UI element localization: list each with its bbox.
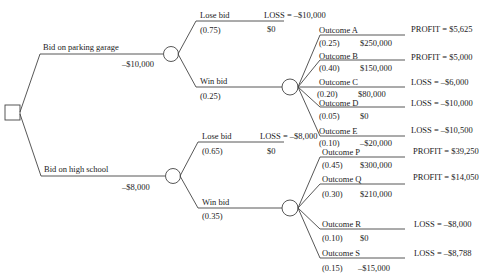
branch-win-bid-2 [180,176,282,208]
outcome-b-value: $150,000 [360,63,392,73]
lose-bid-label-1: Lose bid [200,10,230,20]
outcome-e-label: Outcome E [319,126,357,136]
lose-bid-result-1: LOSS = –$10,000 [264,10,326,20]
lose-bid-value-1: $0 [267,24,276,34]
lose-bid-result-2: LOSS = –$8,000 [260,131,317,141]
outcome-a-label: Outcome A [319,25,358,35]
lose-bid-prob-1: (0.75) [200,25,221,35]
outcome-e-result: LOSS = –$10,500 [411,125,473,135]
outcome-e-value: –$20,000 [360,138,392,148]
outcome-c-result: LOSS = –$6,000 [411,77,468,87]
win-bid-prob-2: (0.35) [202,211,223,221]
outcome-q-prob: (0.30) [322,189,343,199]
outcome-q-result: PROFIT = $14,050 [413,172,479,182]
outcome-r-value: $0 [360,233,369,243]
win-bid-label-2: Win bid [202,197,229,207]
outcome-b-label: Outcome B [319,51,358,61]
outcome-r-prob: (0.10) [322,233,343,243]
lose-bid-value-2: $0 [267,146,276,156]
outcome-d-prob: (0.05) [319,111,340,121]
outcome-a-value: $250,000 [360,38,392,48]
outcome-s-prob: (0.15) [322,263,343,273]
outcome-a-result: PROFIT = $5,625 [411,24,473,34]
outcome-s-result: LOSS = –$8,788 [414,248,471,258]
outcome-c-value: $80,000 [358,89,386,99]
branch-win-bid-1 [178,54,282,87]
option-label-parking: Bid on parking garage [43,42,119,52]
win-bid-label-1: Win bid [200,76,227,86]
chance-node-school-outcomes [282,200,298,216]
outcome-q-label: Outcome Q [322,174,361,184]
outcome-b-prob: (0.40) [319,63,340,73]
outcome-c-label: Outcome C [319,77,358,87]
chance-node-parking-outcomes [282,79,298,95]
chance-node-parking-bid [164,47,179,62]
outcome-r-result: LOSS = –$8,000 [414,219,471,229]
outcome-p-result: PROFIT = $39,250 [413,146,479,156]
outcome-d-result: LOSS = –$10,000 [411,98,473,108]
outcome-d-value: $0 [360,111,369,121]
option-cost-parking: –$10,000 [122,59,154,69]
option-cost-school: –$8,000 [122,182,150,192]
lose-bid-label-2: Lose bid [202,131,232,141]
lose-bid-prob-2: (0.65) [202,146,223,156]
outcome-d-label: Outcome D [319,98,358,108]
outcome-r-label: Outcome R [322,219,361,229]
outcome-s-value: –$15,000 [358,263,390,273]
outcome-b-result: PROFIT = $5,000 [411,52,473,62]
option-label-school: Bid on high school [44,164,108,174]
outcome-s-label: Outcome S [322,248,360,258]
win-bid-prob-1: (0.25) [200,91,221,101]
outcome-p-prob: (0.45) [322,160,343,170]
outcome-a-prob: (0.25) [319,38,340,48]
outcome-p-value: $300,000 [360,160,392,170]
outcome-q-value: $210,000 [360,189,392,199]
decision-node-square [5,105,20,120]
outcome-p-label: Outcome P [322,147,360,157]
chance-node-school-bid [166,169,181,184]
